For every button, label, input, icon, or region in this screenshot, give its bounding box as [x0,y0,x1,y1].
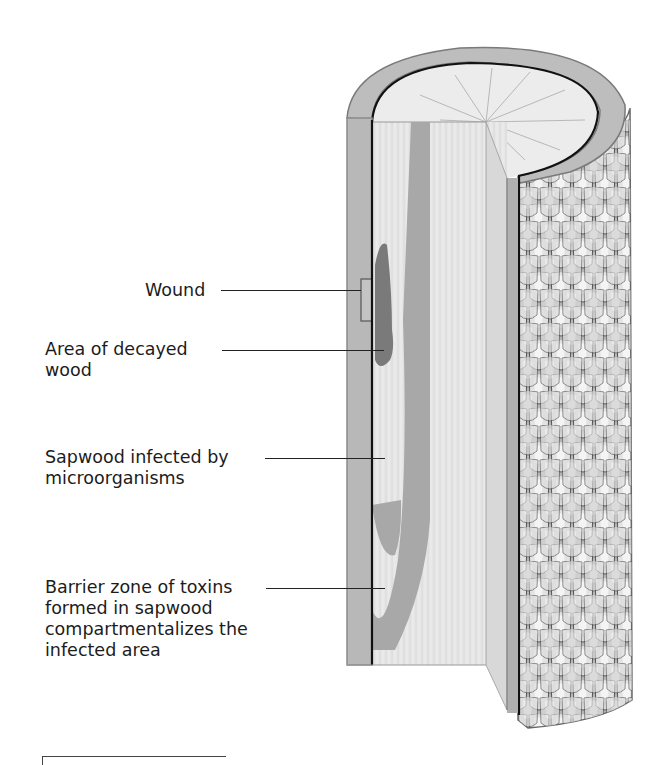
label-sapwood-infected: Sapwood infected by microorganisms [45,447,229,489]
frame-corner-top [42,756,226,757]
label-decayed-wood: Area of decayed wood [45,339,188,381]
inner-face [486,122,507,710]
label-wound: Wound [145,280,205,301]
leader-barrier-zone [266,588,385,589]
leader-sapwood-infected [265,458,385,459]
bark-exterior [518,108,632,728]
leader-wound [221,290,361,291]
label-barrier-zone: Barrier zone of toxins formed in sapwood… [45,577,248,661]
leader-decayed-wood [222,350,384,351]
bark-strip-left [347,118,372,665]
frame-corner-left [42,756,43,765]
